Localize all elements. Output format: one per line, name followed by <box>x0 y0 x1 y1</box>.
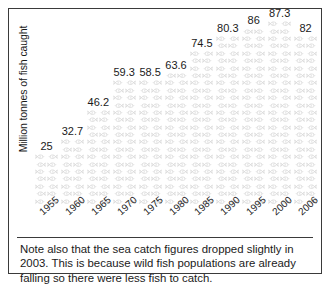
fish-row <box>113 109 136 116</box>
fish-icon <box>216 175 227 182</box>
column-value-label: 63.6 <box>165 60 186 71</box>
fish-icon <box>113 153 124 160</box>
fish-icon <box>99 183 110 190</box>
fish-row <box>242 42 265 49</box>
fish-icon <box>254 183 265 190</box>
fish-icon <box>254 35 265 42</box>
fish-icon <box>294 183 305 190</box>
fish-icon <box>125 124 136 131</box>
fish-icon <box>254 79 265 86</box>
fish-icon <box>190 50 201 57</box>
figure-caption: Note also that the sea catch figures dro… <box>20 242 310 285</box>
fish-icon <box>87 124 98 131</box>
fish-row <box>61 175 84 182</box>
fish-icon <box>139 175 150 182</box>
fish-icon <box>242 109 253 116</box>
fish-row <box>216 79 239 86</box>
fish-row <box>139 183 162 190</box>
fish-icon <box>177 124 188 131</box>
fish-icon <box>139 168 150 175</box>
fish-icon <box>73 146 84 153</box>
fish-row <box>87 153 110 160</box>
fish-icon <box>165 161 176 168</box>
fish-icon <box>99 153 110 160</box>
fish-row <box>190 138 213 145</box>
fish-icon <box>35 168 46 175</box>
fish-row <box>87 116 110 123</box>
fish-icon <box>306 161 317 168</box>
fish-row <box>268 146 291 153</box>
fish-icon <box>177 146 188 153</box>
fish-icon <box>165 175 176 182</box>
fish-row <box>268 35 291 42</box>
fish-icon <box>268 50 279 57</box>
pictograph-column: 46.2 <box>87 109 110 205</box>
fish-icon <box>177 72 188 79</box>
fish-icon <box>139 131 150 138</box>
fish-icon <box>216 161 227 168</box>
fish-icon <box>216 146 227 153</box>
fish-icon <box>306 50 317 57</box>
fish-icon <box>99 116 110 123</box>
fish-row <box>268 72 291 79</box>
fish-icon <box>99 124 110 131</box>
fish-icon <box>280 87 291 94</box>
fish-icon <box>280 131 291 138</box>
fish-row <box>216 131 239 138</box>
fish-icon <box>177 79 188 86</box>
fish-icon <box>87 131 98 138</box>
fish-icon <box>190 168 201 175</box>
fish-icon <box>268 190 279 197</box>
fish-icon <box>268 65 279 72</box>
fish-row <box>216 87 239 94</box>
fish-icon <box>99 146 110 153</box>
fish-icon <box>268 94 279 101</box>
fish-icon <box>151 109 162 116</box>
fish-icon <box>228 102 239 109</box>
fish-row <box>242 124 265 131</box>
fish-icon <box>139 183 150 190</box>
fish-icon <box>216 153 227 160</box>
fish-row <box>61 138 84 145</box>
section-divider <box>17 237 313 238</box>
fish-icon <box>216 102 227 109</box>
fish-row <box>61 161 84 168</box>
fish-icon <box>113 94 124 101</box>
fish-icon <box>47 161 58 168</box>
fish-row <box>113 131 136 138</box>
fish-icon <box>99 175 110 182</box>
fish-icon <box>228 65 239 72</box>
fish-icon <box>87 168 98 175</box>
fish-icon <box>139 161 150 168</box>
fish-icon <box>47 183 58 190</box>
fish-icon <box>242 183 253 190</box>
fish-row <box>61 153 84 160</box>
fish-icon <box>280 20 291 27</box>
fish-icon <box>165 109 176 116</box>
fish-icon <box>254 175 265 182</box>
fish-icon <box>125 131 136 138</box>
fish-icon <box>139 190 150 197</box>
fish-row <box>35 175 58 182</box>
fish-row <box>294 87 317 94</box>
fish-row <box>165 183 188 190</box>
fish-icon <box>165 146 176 153</box>
fish-icon <box>61 175 72 182</box>
fish-icon <box>99 131 110 138</box>
column-value-label: 86 <box>248 15 260 26</box>
fish-icon <box>151 87 162 94</box>
fish-icon <box>177 138 188 145</box>
fish-icon <box>268 20 279 27</box>
fish-icon <box>125 175 136 182</box>
fish-row <box>113 175 136 182</box>
fish-row <box>139 131 162 138</box>
fish-icon <box>280 72 291 79</box>
fish-icon <box>254 57 265 64</box>
fish-icon <box>125 146 136 153</box>
fish-row <box>165 116 188 123</box>
fish-icon <box>254 161 265 168</box>
fish-icon <box>228 175 239 182</box>
fish-row <box>294 131 317 138</box>
fish-row <box>268 116 291 123</box>
fish-icon <box>280 161 291 168</box>
